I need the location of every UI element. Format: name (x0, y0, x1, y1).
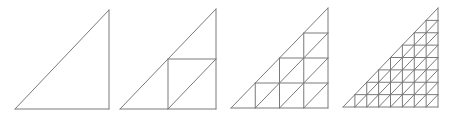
triangle-level-1 (120, 9, 216, 109)
grid-line (304, 83, 328, 108)
grid-line (426, 95, 438, 107)
triangle-level-0 (15, 10, 109, 109)
grid-line (168, 59, 216, 109)
grid-line (15, 10, 109, 109)
triangle-subdivision-diagram (0, 0, 451, 114)
grid-line (355, 20, 438, 107)
triangle-level-3 (343, 8, 438, 107)
triangle-level-2 (231, 8, 328, 108)
grid-line (255, 33, 328, 108)
grid-line (379, 45, 438, 107)
